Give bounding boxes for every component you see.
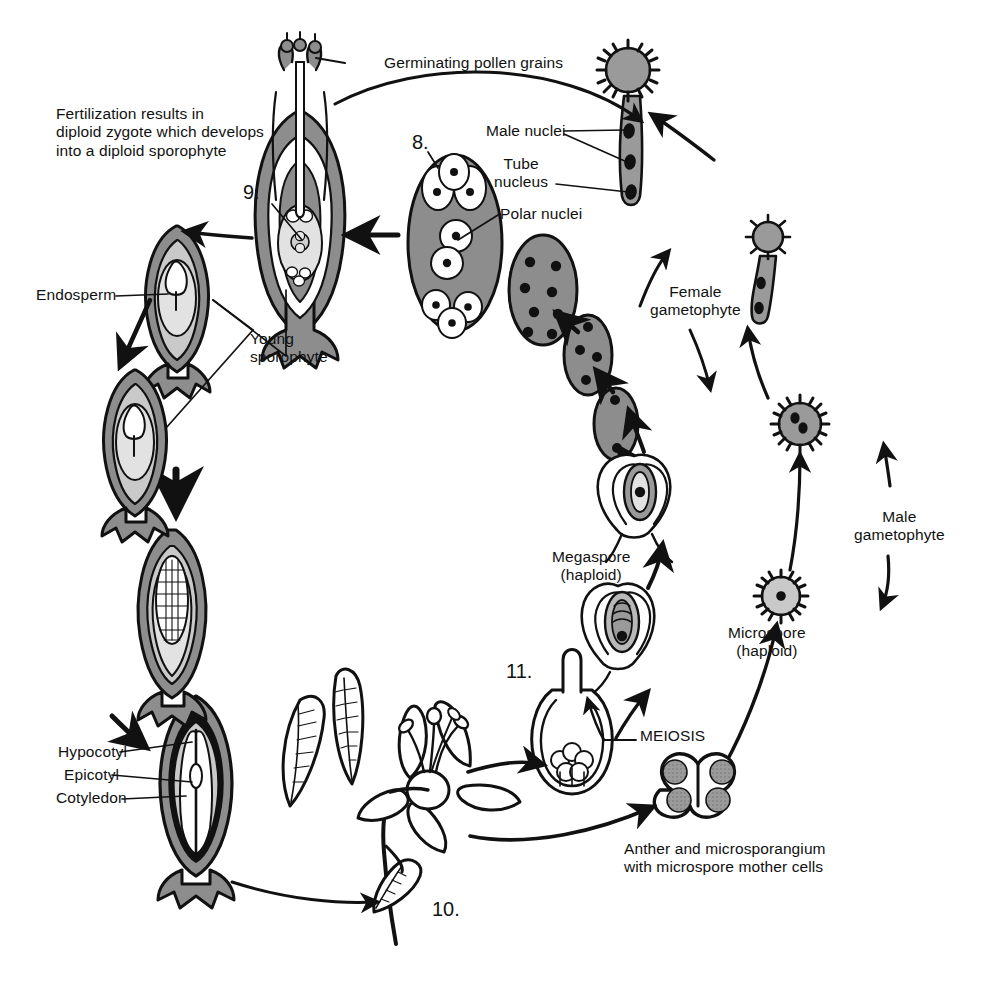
pollen-grain-mature — [771, 395, 829, 453]
arrow-female-gameto-down — [690, 330, 710, 388]
arc-pollination — [335, 72, 640, 120]
arrow-microspore-to-pollen — [790, 456, 800, 570]
arrow-male-gameto-up — [884, 446, 890, 486]
callout-10: 10. — [432, 899, 460, 919]
young-sporophyte-two — [102, 370, 168, 542]
leader-male-nuclei-2 — [564, 134, 627, 162]
fertilized-ovule-structure — [255, 32, 345, 368]
flowering-plant — [283, 669, 520, 944]
ovule-megaspore-mother-cell — [532, 650, 613, 795]
pollen-tube-upper — [597, 40, 659, 205]
label-microspore: Microspore (haploid) — [728, 624, 806, 661]
arrow-sporophyte-1-to-2 — [122, 300, 150, 362]
label-megaspore: Megaspore (haploid) — [552, 548, 630, 585]
leader-tube-nucleus — [556, 184, 628, 192]
label-young-sporophyte: Young sporophyte — [250, 330, 328, 367]
embryo-sac-mature — [408, 154, 502, 338]
seed-with-embryo — [158, 696, 234, 908]
label-male-nuclei: Male nuclei — [486, 122, 566, 140]
ovule-megaspore-upper — [598, 455, 672, 562]
leader-male-nuclei-1 — [564, 130, 625, 131]
callout-8: 8. — [412, 132, 429, 152]
arrow-flower-to-anther — [470, 808, 650, 840]
label-polar-nuclei: Polar nuclei — [500, 205, 582, 223]
ovule-megaspore-lower — [582, 584, 655, 669]
label-epicotyl: Epicotyl — [64, 766, 119, 784]
label-fertilization: Fertilization results in diploid zygote … — [56, 105, 264, 160]
pollen-tube-lower — [746, 215, 790, 324]
label-anther: Anther and microsporangium with microspo… — [624, 840, 826, 877]
label-hypocotyl: Hypocotyl — [58, 743, 127, 761]
label-meiosis: MEIOSIS — [640, 727, 705, 745]
arrow-megaspore-to-gametophyte — [648, 548, 662, 588]
arrow-male-gameto-down — [882, 556, 889, 606]
bracket-young-sporophyte-b — [213, 300, 253, 330]
label-cotyledon: Cotyledon — [56, 789, 127, 807]
young-sporophyte-one — [144, 226, 210, 398]
microspore-haploid — [754, 570, 808, 623]
arrow-flower-to-ovule — [468, 762, 540, 772]
label-germinating-pollen: Germinating pollen grains — [384, 54, 563, 72]
label-tube-nucleus: Tube nucleus — [494, 155, 548, 192]
arrow-to-pollen-tube — [654, 116, 714, 160]
label-endosperm: Endosperm — [36, 286, 116, 304]
callout-9: 9. — [243, 182, 260, 202]
anther-microsporangium — [654, 754, 734, 818]
eight-nucleate-stage — [509, 235, 577, 345]
life-cycle-diagram: Fertilization results in diploid zygote … — [0, 0, 991, 993]
callout-11: 11. — [506, 661, 532, 681]
label-female-gametophyte: Female gametophyte — [650, 283, 741, 320]
arrow-seed-to-plant — [232, 882, 376, 902]
label-male-gametophyte: Male gametophyte — [854, 508, 945, 545]
arrow-pollen-germinates — [748, 330, 768, 398]
arrow-ovary-to-sporophyte — [188, 232, 252, 238]
two-nucleate-stage — [594, 388, 638, 460]
